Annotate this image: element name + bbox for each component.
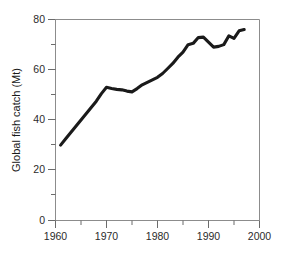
x-tick-label-2000: 2000 bbox=[248, 230, 272, 242]
x-tick-label-1960: 1960 bbox=[44, 230, 68, 242]
line-chart: 80 60 40 20 0 1960 1970 1980 1990 200 bbox=[0, 0, 283, 253]
x-axis-tick-labels: 1960 1970 1980 1990 2000 bbox=[44, 230, 272, 242]
y-tick-label-60: 60 bbox=[33, 63, 45, 75]
frame-border bbox=[56, 20, 260, 221]
x-axis-ticks bbox=[56, 221, 260, 229]
x-tick-label-1980: 1980 bbox=[146, 230, 170, 242]
chart-figure: 80 60 40 20 0 1960 1970 1980 1990 200 bbox=[0, 0, 283, 253]
y-axis-ticks bbox=[48, 20, 56, 221]
y-axis-label-text: Global fish catch (Mt) bbox=[10, 68, 22, 172]
x-tick-label-1990: 1990 bbox=[197, 230, 221, 242]
y-tick-label-0: 0 bbox=[39, 214, 45, 226]
plot-frame bbox=[56, 20, 260, 221]
y-tick-label-40: 40 bbox=[33, 113, 45, 125]
y-axis-tick-labels: 80 60 40 20 0 bbox=[33, 13, 45, 226]
data-series-group bbox=[61, 30, 245, 146]
y-tick-label-80: 80 bbox=[33, 13, 45, 25]
y-tick-label-20: 20 bbox=[33, 163, 45, 175]
y-axis-label: Global fish catch (Mt) bbox=[10, 68, 22, 172]
data-series-line bbox=[61, 30, 245, 146]
x-tick-label-1970: 1970 bbox=[95, 230, 119, 242]
